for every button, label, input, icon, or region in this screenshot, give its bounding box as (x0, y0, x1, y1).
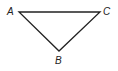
vertex-label-b: B (55, 56, 62, 66)
triangle-abc (19, 12, 100, 51)
vertex-label-a: A (7, 7, 14, 17)
vertex-label-c: C (103, 7, 110, 17)
